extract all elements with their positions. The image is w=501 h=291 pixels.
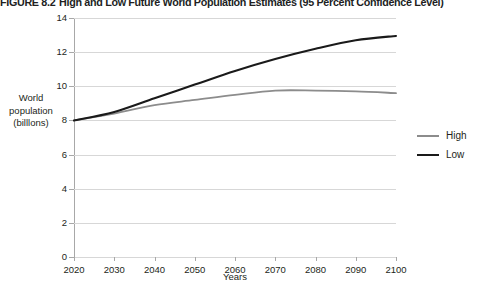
series-line-high (74, 90, 396, 120)
y-axis-tick-label: 14 (56, 13, 67, 23)
y-axis-title-line-1: World (2, 92, 60, 105)
x-axis-tick (396, 257, 397, 261)
chart-legend: HighLow (417, 126, 497, 164)
x-axis-title: Years (74, 271, 396, 282)
x-axis-tick (74, 257, 75, 261)
legend-item-low[interactable]: Low (417, 145, 497, 164)
x-axis-tick (114, 257, 115, 261)
y-axis-tick-label: 12 (56, 47, 67, 57)
series-lines (74, 18, 396, 257)
legend-swatch-high (417, 135, 439, 137)
x-axis-tick (195, 257, 196, 261)
y-axis-tick-label: 0 (62, 252, 67, 262)
x-axis-tick (316, 257, 317, 261)
y-axis-title-line-2: population (2, 105, 60, 118)
legend-swatch-low (417, 154, 439, 156)
y-axis-tick-label: 4 (62, 184, 67, 194)
y-axis-title-line-3: (billlons) (2, 117, 60, 130)
y-axis-tick-label: 8 (62, 116, 67, 126)
x-axis-tick (235, 257, 236, 261)
x-axis-tick (275, 257, 276, 261)
y-axis-tick-label: 10 (56, 82, 67, 92)
x-axis-tick (155, 257, 156, 261)
legend-label-low: Low (446, 150, 464, 160)
chart-area: World population (billlons) 02468101214 … (0, 0, 501, 291)
legend-item-high[interactable]: High (417, 126, 497, 145)
x-axis-tick (356, 257, 357, 261)
y-axis-title: World population (billlons) (2, 92, 60, 130)
legend-label-high: High (446, 131, 467, 141)
y-axis-tick-label: 6 (62, 150, 67, 160)
series-line-low (74, 36, 396, 121)
plot-area: 02468101214 2020203020402050206020702080… (74, 18, 396, 257)
y-axis-tick-label: 2 (62, 218, 67, 228)
